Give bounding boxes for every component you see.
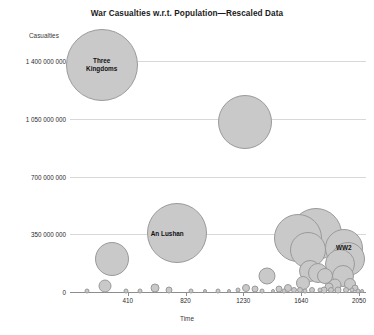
- bubble-label: WW2: [336, 244, 352, 252]
- data-bubble[interactable]: [216, 288, 221, 293]
- y-axis-tick-label: 350 000 000: [4, 231, 66, 238]
- data-bubble[interactable]: [309, 287, 315, 293]
- x-axis-tick-label: 410: [123, 297, 134, 304]
- data-bubble[interactable]: [282, 288, 287, 293]
- data-bubble[interactable]: [95, 242, 129, 276]
- data-bubble[interactable]: [328, 287, 334, 293]
- data-bubble[interactable]: [150, 283, 159, 292]
- data-bubble[interactable]: [138, 288, 143, 293]
- data-bubble[interactable]: [259, 288, 264, 293]
- data-bubble[interactable]: [259, 267, 276, 284]
- data-bubble[interactable]: [99, 280, 112, 293]
- x-axis-tick-mark: [128, 293, 129, 296]
- data-bubble[interactable]: [334, 286, 341, 293]
- data-bubble[interactable]: [242, 284, 250, 292]
- bubble-chart: War Casualties w.r.t. Population—Rescale…: [0, 0, 374, 335]
- gridline: [70, 177, 366, 178]
- x-axis-tick-label: 1640: [294, 297, 308, 304]
- data-bubble[interactable]: [271, 289, 275, 293]
- bubble-label: ThreeKingdoms: [86, 57, 117, 73]
- y-axis-tick-label: 1 400 000 000: [4, 58, 66, 65]
- chart-title: War Casualties w.r.t. Population—Rescale…: [0, 9, 374, 18]
- data-bubble[interactable]: [227, 289, 231, 293]
- data-bubble[interactable]: [343, 287, 349, 293]
- x-axis-tick-label: 1230: [236, 297, 250, 304]
- y-axis-tick-label: 1 050 000 000: [4, 116, 66, 123]
- data-bubble[interactable]: [251, 286, 258, 293]
- data-bubble[interactable]: [318, 288, 323, 293]
- x-axis-title: Time: [0, 315, 374, 322]
- x-axis-tick-label: 2050: [352, 297, 366, 304]
- y-axis-title: Casualties: [29, 32, 59, 39]
- y-axis-tick-label: 0: [4, 289, 66, 296]
- data-bubble[interactable]: [218, 95, 272, 149]
- bubble-label: An Lushan: [151, 230, 184, 238]
- data-bubble[interactable]: [189, 288, 194, 293]
- x-axis-tick-label: 820: [180, 297, 191, 304]
- x-axis-tick-mark: [243, 293, 244, 296]
- x-axis-tick-mark: [359, 293, 360, 296]
- data-bubble[interactable]: [349, 288, 354, 293]
- data-bubble[interactable]: [303, 288, 308, 293]
- data-bubble[interactable]: [165, 286, 172, 293]
- data-bubble[interactable]: [124, 288, 129, 293]
- x-axis-tick-mark: [301, 293, 302, 296]
- data-bubble[interactable]: [235, 288, 240, 293]
- data-bubble[interactable]: [203, 289, 207, 293]
- data-bubble[interactable]: [84, 288, 89, 293]
- x-axis-tick-mark: [186, 293, 187, 296]
- data-bubble[interactable]: [297, 287, 303, 293]
- data-bubble[interactable]: [360, 289, 364, 293]
- y-axis-tick-label: 700 000 000: [4, 173, 66, 180]
